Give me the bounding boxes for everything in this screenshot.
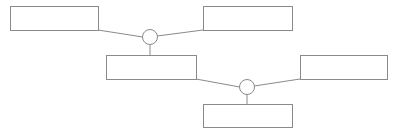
- node-box-middle-left-rect[interactable]: [107, 56, 197, 80]
- junction-upper-circle[interactable]: [143, 30, 158, 45]
- diagram-svg: [0, 0, 398, 134]
- link-junction-upper-to-top-right: [157, 30, 203, 36]
- node-box-middle-left[interactable]: [107, 56, 197, 80]
- diagram-canvas: [0, 0, 398, 134]
- node-box-middle-right[interactable]: [301, 56, 388, 80]
- link-middle-left-to-junction-lower: [196, 79, 240, 87]
- junction-upper[interactable]: [143, 30, 158, 45]
- node-box-bottom-rect[interactable]: [204, 105, 293, 128]
- node-box-top-right-rect[interactable]: [204, 7, 293, 31]
- node-box-top-left[interactable]: [11, 7, 99, 31]
- link-junction-lower-to-middle-right: [254, 79, 300, 86]
- node-box-bottom[interactable]: [204, 105, 293, 128]
- node-box-top-right[interactable]: [204, 7, 293, 31]
- junction-lower[interactable]: [240, 80, 255, 95]
- node-box-middle-right-rect[interactable]: [301, 56, 388, 80]
- junction-lower-circle[interactable]: [240, 80, 255, 95]
- node-box-top-left-rect[interactable]: [11, 7, 99, 31]
- node-box-layer: [11, 7, 388, 128]
- link-top-left-to-junction-upper: [98, 30, 143, 37]
